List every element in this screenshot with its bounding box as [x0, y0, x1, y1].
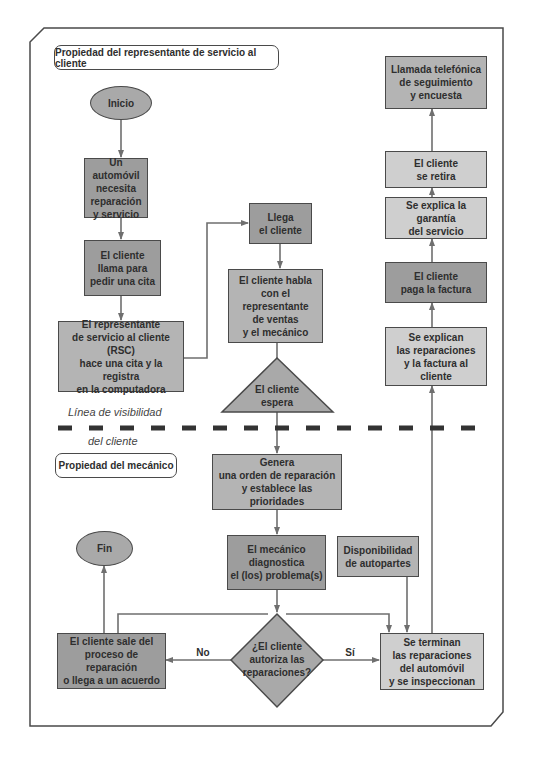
- node-customer-talks: El cliente habla con el representante de…: [228, 269, 323, 343]
- node-rsc-books: El representante de servicio al cliente …: [58, 321, 184, 392]
- node-repairs-explained: Se explican las reparaciones y la factur…: [385, 327, 487, 386]
- edge-label-yes: Sí: [340, 646, 360, 659]
- edge-top-right-branch: [286, 614, 389, 632]
- node-diagnosis: El mecánico diagnostica el (los) problem…: [227, 535, 326, 590]
- node-follow-up-call: Llamada telefónica de seguimiento y encu…: [385, 56, 487, 109]
- edge-label-no: No: [193, 646, 213, 659]
- node-authorize-decision: ¿El cliente autoriza las reparaciones?: [232, 640, 322, 679]
- node-car-needs-service: Un automóvil necesita reparación y servi…: [84, 158, 148, 218]
- node-work-order: Genera una orden de reparación y estable…: [212, 454, 342, 510]
- node-customer-arrives: Llega el cliente: [249, 203, 312, 244]
- start-node: Inicio: [90, 86, 152, 120]
- section-header-customer-service: Propiedad del representante de servicio …: [54, 45, 279, 70]
- visibility-line-label-top: Línea de visibilidad: [68, 405, 178, 419]
- node-warranty-explained: Se explica la garantía del servicio: [385, 197, 487, 239]
- end-node: Fin: [76, 531, 133, 566]
- visibility-line-label-bottom: del cliente: [88, 434, 168, 448]
- section-header-mechanic: Propiedad del mecánico: [55, 453, 177, 478]
- node-customer-pays: El cliente paga la factura: [385, 262, 487, 303]
- node-parts-availability: Disponibilidad de autopartes: [337, 536, 419, 577]
- node-repairs-done: Se terminan las reparaciones del automóv…: [380, 633, 484, 690]
- node-customer-calls: El cliente llama para pedir una cita: [84, 240, 161, 296]
- node-customer-exits: El cliente sale del proceso de reparació…: [57, 633, 166, 689]
- edge-top-left-branch: [118, 614, 268, 633]
- node-customer-leaves: El cliente se retira: [385, 151, 487, 188]
- node-customer-waits: El cliente espera: [247, 383, 307, 409]
